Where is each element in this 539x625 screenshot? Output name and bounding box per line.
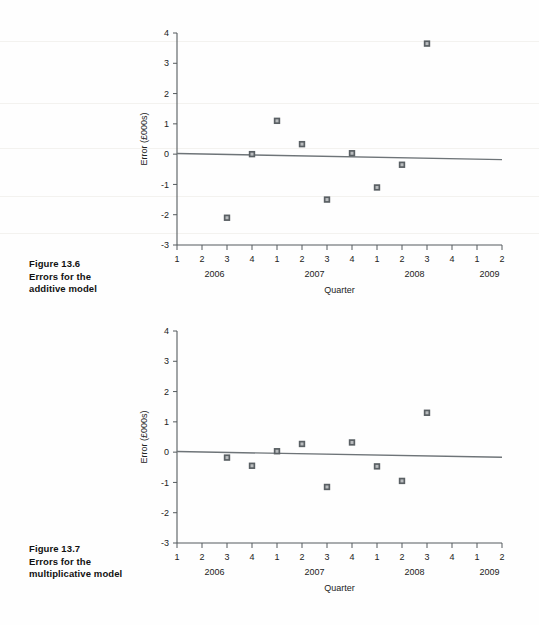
data-point-marker-center (426, 42, 429, 45)
x-axis-year-label: 2008 (404, 269, 424, 279)
x-axis-tick-label: 4 (449, 552, 454, 562)
data-point (349, 439, 355, 445)
x-axis-year-label: 2008 (404, 567, 424, 577)
y-axis-tick-label: -3 (161, 538, 169, 548)
data-point-marker-center (301, 442, 304, 445)
data-point (424, 410, 430, 416)
data-point-marker-center (401, 163, 404, 166)
x-axis-tick-label: 1 (474, 552, 479, 562)
x-axis-tick-label: 4 (349, 254, 354, 264)
x-axis-tick-label: 2 (499, 552, 504, 562)
x-axis-tick-label: 2 (499, 254, 504, 264)
data-point-marker-center (326, 485, 329, 488)
y-axis-tick-label: 3 (164, 58, 169, 68)
data-point (274, 448, 280, 454)
data-point-marker-center (351, 152, 354, 155)
y-axis-tick-label: 0 (164, 149, 169, 159)
x-axis-year-label: 2007 (304, 567, 324, 577)
data-point (374, 184, 380, 190)
x-axis-tick-label: 2 (199, 552, 204, 562)
x-axis-year-label: 2007 (304, 269, 324, 279)
data-point (224, 215, 230, 221)
x-axis-tick-label: 2 (299, 254, 304, 264)
data-point (424, 40, 430, 46)
y-axis-tick-label: 2 (164, 387, 169, 397)
y-axis-title: Error (£000s) (139, 112, 149, 165)
x-axis-tick-label: 1 (474, 254, 479, 264)
x-axis-year-label: 2009 (479, 567, 499, 577)
x-axis-tick-label: 1 (374, 552, 379, 562)
x-axis-tick-label: 3 (224, 552, 229, 562)
data-point (249, 463, 255, 469)
x-axis-tick-label: 3 (324, 254, 329, 264)
data-point-marker-center (226, 216, 229, 219)
x-axis-tick-label: 2 (299, 552, 304, 562)
x-axis-tick-label: 3 (224, 254, 229, 264)
x-axis-tick-label: 3 (424, 254, 429, 264)
data-point-marker-center (301, 143, 304, 146)
x-axis-tick-label: 3 (424, 552, 429, 562)
x-axis-tick-label: 1 (274, 254, 279, 264)
y-axis-tick-label: -3 (161, 240, 169, 250)
scatter-plot-additive: 43210-1-2-3Error (£000s)1234123412341220… (0, 8, 539, 308)
x-axis-tick-label: 4 (449, 254, 454, 264)
x-axis-tick-label: 1 (274, 552, 279, 562)
chart-errors-multiplicative-model: 43210-1-2-3Error (£000s)1234123412341220… (0, 306, 539, 611)
x-axis-title: Quarter (324, 285, 355, 295)
data-point-marker-center (251, 464, 254, 467)
y-axis-tick-label: 1 (164, 417, 169, 427)
y-axis-tick-label: -2 (161, 508, 169, 518)
x-axis-tick-label: 2 (399, 552, 404, 562)
data-point-marker-center (226, 456, 229, 459)
data-point-marker-center (376, 186, 379, 189)
data-point-marker-center (401, 479, 404, 482)
x-axis-tick-label: 3 (324, 552, 329, 562)
x-axis-tick-label: 1 (374, 254, 379, 264)
y-axis-tick-label: 0 (164, 447, 169, 457)
data-point (399, 478, 405, 484)
x-axis-tick-label: 2 (399, 254, 404, 264)
x-axis-year-label: 2006 (204, 567, 224, 577)
y-axis-tick-label: 4 (164, 326, 169, 336)
x-axis-tick-label: 4 (249, 552, 254, 562)
x-axis-tick-label: 1 (174, 254, 179, 264)
data-point-marker-center (251, 153, 254, 156)
y-axis-tick-label: 4 (164, 28, 169, 38)
data-point (299, 441, 305, 447)
x-axis-tick-label: 4 (349, 552, 354, 562)
y-axis-tick-label: 1 (164, 119, 169, 129)
x-axis-tick-label: 4 (249, 254, 254, 264)
data-point (324, 196, 330, 202)
data-point (324, 484, 330, 490)
y-axis-tick-label: 3 (164, 356, 169, 366)
data-point-marker-center (276, 119, 279, 122)
data-point-marker-center (351, 441, 354, 444)
data-point (249, 151, 255, 157)
y-axis-tick-label: -1 (161, 478, 169, 488)
x-axis-tick-label: 2 (199, 254, 204, 264)
chart-errors-additive-model: 43210-1-2-3Error (£000s)1234123412341220… (0, 8, 539, 308)
x-axis-title: Quarter (324, 583, 355, 593)
data-point (299, 141, 305, 147)
scatter-plot-multiplicative: 43210-1-2-3Error (£000s)1234123412341220… (0, 306, 539, 611)
book-page: Figure 13.6 Errors for the additive mode… (0, 0, 539, 625)
trend-line (177, 154, 502, 160)
data-point (374, 463, 380, 469)
y-axis-tick-label: 2 (164, 89, 169, 99)
data-point-marker-center (276, 450, 279, 453)
data-point (274, 118, 280, 124)
y-axis-tick-label: -2 (161, 210, 169, 220)
x-axis-tick-label: 1 (174, 552, 179, 562)
y-axis-title: Error (£000s) (139, 410, 149, 463)
data-point-marker-center (426, 411, 429, 414)
data-point (224, 454, 230, 460)
data-point (349, 150, 355, 156)
x-axis-year-label: 2009 (479, 269, 499, 279)
data-point (399, 162, 405, 168)
data-point-marker-center (326, 198, 329, 201)
x-axis-year-label: 2006 (204, 269, 224, 279)
y-axis-tick-label: -1 (161, 180, 169, 190)
data-point-marker-center (376, 465, 379, 468)
